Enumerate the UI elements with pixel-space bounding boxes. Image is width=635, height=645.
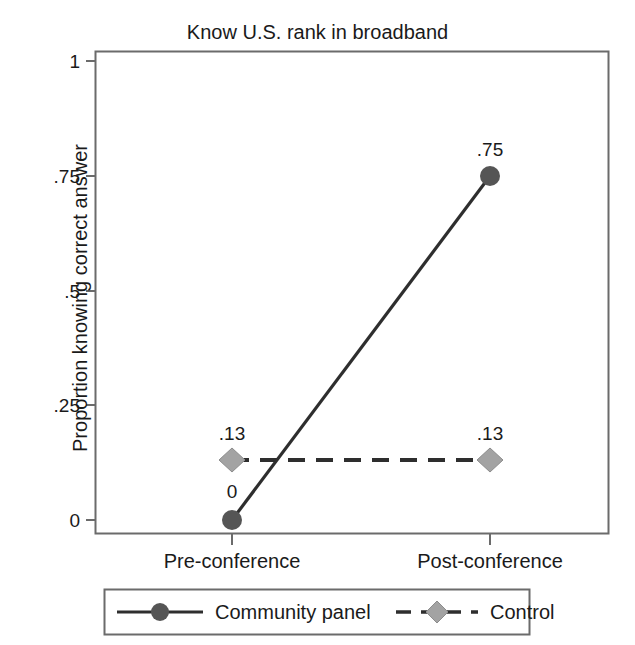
x-tick-label-post-conference: Post-conference (360, 551, 620, 571)
data-point-community-panel-pre (222, 510, 242, 530)
y-tick-label-05: .5 (10, 282, 80, 301)
legend-marker-community-panel (151, 603, 169, 621)
series-community-panel-line (232, 176, 490, 520)
data-point-control-post (477, 448, 503, 472)
legend-marker-control (426, 601, 448, 623)
y-tick-label-1: 1 (10, 52, 80, 71)
legend-label-control: Control (490, 602, 554, 622)
x-tick-label-pre-conference: Pre-conference (102, 551, 362, 571)
data-label-control-post: .13 (455, 424, 525, 443)
data-label-community-panel-pre: 0 (197, 482, 267, 501)
legend-label-community-panel: Community panel (215, 602, 371, 622)
data-label-community-panel-post: .75 (455, 140, 525, 159)
y-tick-label-075: .75 (10, 167, 80, 186)
chart-figure: Know U.S. rank in broadband Proportion k… (0, 0, 635, 645)
data-label-control-pre: .13 (197, 424, 267, 443)
chart-title: Know U.S. rank in broadband (0, 22, 635, 42)
y-tick-label-025: .25 (10, 396, 80, 415)
data-point-control-pre (219, 448, 245, 472)
y-tick-label-0: 0 (10, 511, 80, 530)
chart-canvas (0, 0, 635, 645)
x-axis-ticks (232, 534, 490, 545)
data-point-community-panel-post (480, 166, 500, 186)
